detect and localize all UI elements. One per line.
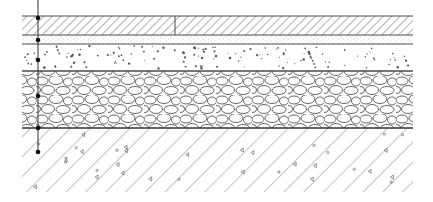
- sand-grain: [198, 55, 199, 56]
- fine-sand-bedding-fill: [22, 35, 413, 44]
- sand-grain: [183, 61, 185, 63]
- sand-grain: [34, 53, 36, 55]
- sand-grain: [193, 46, 196, 49]
- sand-grain: [128, 62, 130, 64]
- sand-grain: [43, 66, 46, 69]
- sand-grain: [310, 57, 312, 59]
- sand-grain: [276, 48, 277, 49]
- sand-grain: [113, 52, 115, 54]
- sand-grain: [357, 56, 358, 57]
- dimension-marker: [36, 94, 41, 99]
- sand-grain: [264, 47, 266, 49]
- sand-grain: [31, 63, 33, 65]
- sand-grain: [235, 53, 236, 54]
- sand-grain: [394, 57, 395, 58]
- sand-grain: [115, 62, 116, 63]
- sand-grain: [228, 53, 229, 54]
- sand-grain: [26, 60, 27, 61]
- sand-grain: [204, 48, 206, 50]
- sand-grain: [200, 65, 202, 67]
- sand-grain: [243, 50, 245, 52]
- sand-grain: [304, 53, 305, 54]
- sand-grain: [407, 64, 409, 66]
- sand-grain: [370, 52, 371, 53]
- sand-grain: [123, 59, 125, 61]
- dimension-marker: [36, 58, 41, 63]
- sand-grain: [283, 53, 285, 55]
- sand-grain: [212, 47, 214, 49]
- sand-grain: [119, 48, 121, 50]
- sand-grain: [283, 52, 284, 53]
- sand-grain: [141, 46, 143, 48]
- natural-soil-fill: [22, 128, 413, 192]
- sand-grain: [56, 47, 57, 48]
- sand-grain: [195, 65, 197, 67]
- surface-slab-fill: [22, 16, 413, 35]
- sand-grain: [388, 64, 390, 66]
- sand-grain: [110, 54, 111, 55]
- sand-grain: [373, 57, 375, 59]
- sand-grain: [374, 59, 376, 61]
- sand-grain: [404, 56, 405, 57]
- sand-grain: [397, 66, 399, 68]
- sand-grain: [193, 54, 195, 56]
- sand-grain: [78, 53, 80, 55]
- sand-grain: [316, 47, 318, 49]
- sand-grain: [371, 48, 373, 50]
- sand-grain: [201, 57, 203, 59]
- sand-grain: [44, 54, 46, 56]
- dimension-marker: [36, 150, 41, 155]
- sand-grain: [366, 67, 368, 69]
- sand-grain: [325, 61, 326, 62]
- sand-grain: [344, 49, 346, 51]
- sand-grain: [24, 56, 26, 58]
- sand-grain: [287, 62, 288, 63]
- sand-grain: [344, 65, 345, 66]
- layer-fine-sand-bedding: [22, 35, 413, 44]
- sand-grain: [313, 63, 315, 65]
- sand-grain: [80, 49, 82, 51]
- sand-grain: [152, 46, 153, 47]
- sand-grain: [118, 55, 120, 57]
- sand-grain: [202, 65, 203, 66]
- sand-grain: [157, 67, 159, 69]
- sand-grain: [73, 62, 75, 64]
- sand-grain: [279, 65, 280, 66]
- sand-grain: [314, 66, 316, 68]
- sand-grain: [85, 66, 87, 68]
- sand-grain: [240, 57, 241, 58]
- gravel-subbase-fill: [22, 71, 413, 128]
- sand-grain: [256, 54, 258, 56]
- sand-grain: [107, 54, 109, 56]
- dimension-marker: [36, 16, 41, 21]
- sand-grain: [213, 58, 214, 59]
- sand-grain: [198, 48, 199, 49]
- sand-grain: [238, 60, 240, 62]
- sand-grain: [174, 49, 176, 51]
- sand-grain: [118, 46, 120, 48]
- dimension-marker: [36, 38, 41, 43]
- sand-grain: [308, 53, 310, 55]
- sand-grain: [131, 53, 133, 55]
- sand-grain: [244, 66, 245, 67]
- sand-grain: [285, 49, 286, 50]
- sand-grain: [59, 54, 60, 55]
- sand-grain: [183, 52, 185, 54]
- layer-surface-slab: [22, 16, 413, 35]
- sand-grain: [282, 67, 284, 69]
- sand-grain: [392, 53, 394, 55]
- sand-grain: [114, 62, 115, 63]
- sand-grain: [214, 50, 216, 52]
- sand-grain: [77, 49, 78, 50]
- sand-grain: [162, 47, 164, 49]
- sand-grain: [97, 55, 99, 57]
- sand-grain: [27, 53, 29, 55]
- sand-grain: [144, 60, 145, 61]
- sand-grain: [88, 45, 90, 47]
- sand-grain: [366, 53, 367, 54]
- sand-grain: [66, 56, 68, 58]
- sand-grain: [312, 60, 314, 62]
- sand-grain: [72, 54, 74, 56]
- sand-grain: [390, 59, 391, 60]
- sand-grain: [55, 67, 56, 68]
